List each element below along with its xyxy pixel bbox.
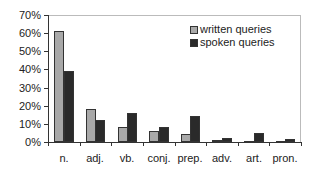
x-tick-label: vb.: [111, 152, 143, 164]
written-bar: [244, 141, 254, 143]
y-tick-label: 10%: [0, 118, 41, 130]
legend-label-spoken: spoken queries: [200, 36, 275, 49]
y-tick-label: 30%: [0, 82, 41, 94]
x-tick-label: adj.: [79, 152, 111, 164]
y-tick: [44, 69, 48, 70]
x-tick: [143, 142, 144, 146]
spoken-bar: [127, 113, 137, 142]
legend-item-written: written queries: [190, 23, 275, 36]
x-tick: [175, 142, 176, 146]
x-tick-label: pron.: [269, 152, 301, 164]
x-tick: [206, 142, 207, 146]
x-tick: [269, 142, 270, 146]
x-tick-label: adv.: [206, 152, 238, 164]
spoken-bar: [285, 139, 295, 142]
written-bar: [54, 31, 64, 142]
x-tick: [301, 142, 302, 146]
y-tick-label: 0%: [0, 136, 41, 148]
x-tick: [48, 142, 49, 146]
y-tick: [44, 88, 48, 89]
x-tick: [111, 142, 112, 146]
legend: written queries spoken queries: [190, 23, 275, 49]
y-tick: [44, 106, 48, 107]
y-tick: [44, 33, 48, 34]
y-tick-label: 60%: [0, 27, 41, 39]
y-tick-label: 70%: [0, 9, 41, 21]
x-tick: [238, 142, 239, 146]
y-tick: [44, 51, 48, 52]
bar-chart: 0%10%20%30%40%50%60%70% n.adj.vb.conj.pr…: [0, 0, 316, 176]
y-tick-label: 50%: [0, 45, 41, 57]
x-tick-label: n.: [48, 152, 80, 164]
spoken-bar: [159, 127, 169, 142]
written-bar: [149, 131, 159, 142]
x-tick: [80, 142, 81, 146]
spoken-swatch-icon: [190, 39, 198, 47]
y-tick: [44, 124, 48, 125]
spoken-bar: [254, 133, 264, 142]
spoken-bar: [64, 71, 74, 142]
legend-label-written: written queries: [200, 23, 272, 36]
x-tick-label: art.: [238, 152, 270, 164]
x-tick-label: prep.: [174, 152, 206, 164]
written-bar: [212, 140, 222, 142]
legend-item-spoken: spoken queries: [190, 36, 275, 49]
spoken-bar: [222, 138, 232, 142]
y-tick: [44, 15, 48, 16]
y-axis: [48, 15, 49, 143]
spoken-bar: [190, 116, 200, 142]
y-tick-label: 20%: [0, 100, 41, 112]
written-swatch-icon: [190, 26, 198, 34]
spoken-bar: [95, 120, 105, 142]
y-tick-label: 40%: [0, 63, 41, 75]
x-tick-label: conj.: [143, 152, 175, 164]
